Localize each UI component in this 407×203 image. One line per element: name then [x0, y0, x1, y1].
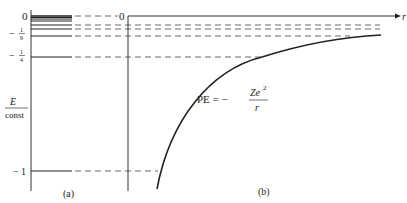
svg-text:4: 4: [20, 57, 23, 63]
energy-level-diagram: 0 − 1 9 − 1 4 − 1 E const: [0, 0, 407, 203]
svg-text:−: −: [13, 166, 19, 177]
potential-energy-curve: [157, 35, 381, 189]
panel-a-caption: (a): [63, 188, 74, 200]
tick-label-minus-ninth: − 1 9: [9, 27, 25, 41]
panel-a-energy-levels: [31, 16, 72, 171]
panel-b-caption: (b): [258, 186, 270, 198]
tick-label-minus-one: − 1: [13, 166, 26, 177]
r-axis-label: r: [402, 11, 406, 22]
svg-text:E: E: [9, 96, 16, 107]
svg-text:r: r: [255, 102, 259, 113]
svg-text:1: 1: [20, 49, 23, 55]
svg-text:const: const: [5, 110, 24, 120]
svg-text:9: 9: [20, 35, 23, 41]
svg-text:−: −: [9, 28, 15, 39]
svg-text:−: −: [9, 50, 15, 61]
energy-axis-label: E const: [5, 96, 28, 120]
svg-text:Ze: Ze: [250, 87, 261, 98]
svg-text:1: 1: [21, 166, 26, 177]
svg-text:2: 2: [263, 84, 267, 92]
tick-label-zero: 0: [22, 10, 28, 22]
tick-label-minus-quarter: − 1 4: [9, 49, 25, 63]
svg-text:PE = −: PE = −: [197, 93, 228, 105]
r-axis-arrow-icon: [395, 14, 401, 19]
svg-text:1: 1: [20, 27, 23, 33]
panel-b-origin-label: 0: [119, 10, 125, 22]
